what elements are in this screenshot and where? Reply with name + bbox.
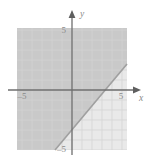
coordinate-plane-svg: 5 –5 5 –5 y x [0, 0, 154, 162]
x-axis-label: x [138, 93, 144, 103]
inequality-graph-figure: 5 –5 5 –5 y x [0, 0, 154, 162]
x-axis-tick-label-left: –5 [17, 91, 28, 101]
y-axis-tick-label-bottom: –5 [56, 144, 67, 154]
y-axis-arrow-icon [69, 10, 76, 18]
y-axis-tick-label-top: 5 [62, 25, 67, 35]
y-axis-label: y [79, 9, 85, 19]
x-axis-tick-label-right: 5 [119, 91, 124, 101]
